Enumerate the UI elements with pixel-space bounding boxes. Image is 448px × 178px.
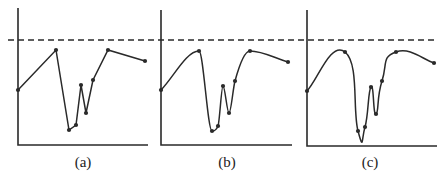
- data-point: [363, 125, 367, 129]
- interpolation-figure: [0, 0, 448, 178]
- caption-b: (b): [207, 154, 247, 171]
- data-point: [74, 123, 78, 127]
- axes-c: [307, 10, 437, 146]
- data-point: [374, 112, 378, 116]
- axes-b: [161, 10, 292, 145]
- data-point: [91, 78, 95, 82]
- data-point: [159, 88, 163, 92]
- panel-c: [305, 10, 437, 146]
- data-point: [380, 79, 384, 83]
- data-point: [84, 111, 88, 115]
- data-point: [305, 89, 309, 93]
- data-point: [221, 84, 225, 88]
- caption-c: (c): [350, 154, 390, 171]
- panel-a: [16, 8, 148, 145]
- caption-a: (a): [63, 154, 103, 171]
- data-point: [233, 79, 237, 83]
- data-point: [343, 50, 347, 54]
- data-point: [106, 48, 110, 52]
- data-point: [286, 60, 290, 64]
- data-point: [432, 61, 436, 65]
- data-point: [369, 85, 373, 89]
- curve-a: [18, 50, 145, 130]
- panels-group: [16, 8, 437, 146]
- data-point: [197, 49, 201, 53]
- data-point: [227, 111, 231, 115]
- axes-a: [18, 8, 148, 145]
- data-point: [394, 50, 398, 54]
- data-point: [248, 49, 252, 53]
- data-point: [143, 59, 147, 63]
- curve-c: [307, 50, 434, 142]
- data-point: [216, 124, 220, 128]
- data-point: [54, 48, 58, 52]
- data-point: [210, 129, 214, 133]
- curve-b: [161, 51, 288, 131]
- data-point: [356, 129, 360, 133]
- panel-b: [159, 10, 292, 145]
- data-point: [67, 128, 71, 132]
- data-point: [79, 83, 83, 87]
- data-point: [16, 88, 20, 92]
